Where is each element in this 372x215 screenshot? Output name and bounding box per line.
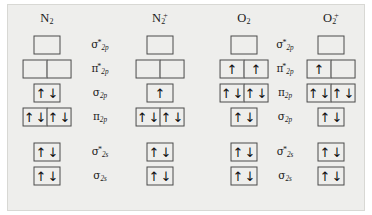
spin-up-arrow: ↑ bbox=[332, 88, 343, 99]
orbital-subscript: 2s bbox=[285, 175, 291, 183]
empty-orbital-box[interactable] bbox=[136, 60, 161, 79]
spin-down-arrow: ↓ bbox=[245, 171, 256, 182]
orbital-box-row-n2-5: ↑↓ bbox=[34, 167, 61, 186]
empty-orbital-box[interactable] bbox=[231, 36, 258, 55]
spin-down-arrow: ↓ bbox=[233, 88, 244, 99]
box-group: ↑↓↑↓ bbox=[220, 84, 269, 103]
orbital-box-row-o2plus-1: ↑ bbox=[307, 60, 356, 79]
orbital-subscript: 2s bbox=[287, 151, 293, 159]
spin-up-arrow: ↑ bbox=[155, 88, 166, 99]
spin-down-arrow: ↓ bbox=[343, 88, 354, 99]
occupied-orbital-box[interactable]: ↑↓ bbox=[231, 167, 258, 186]
spin-down-arrow: ↓ bbox=[332, 112, 343, 123]
occupied-orbital-box[interactable]: ↑ bbox=[147, 84, 174, 103]
orbital-greek-symbol: π bbox=[278, 86, 285, 98]
occupied-orbital-box[interactable]: ↑↓ bbox=[46, 108, 71, 127]
empty-orbital-box[interactable] bbox=[23, 60, 48, 79]
species-subscript: 2 bbox=[247, 17, 251, 26]
column-header-o2plus: O2+ bbox=[323, 11, 339, 26]
box-group: ↑↓ bbox=[231, 108, 258, 127]
occupied-orbital-box[interactable]: ↑↓ bbox=[231, 108, 258, 127]
spin-down-arrow: ↓ bbox=[48, 171, 59, 182]
empty-orbital-box[interactable] bbox=[159, 60, 184, 79]
orbital-box-row-n2-0 bbox=[34, 36, 61, 55]
occupied-orbital-box[interactable]: ↑↓ bbox=[307, 84, 332, 103]
orbital-subscript: 2p bbox=[285, 116, 292, 124]
box-group bbox=[23, 60, 72, 79]
occupied-orbital-box[interactable]: ↑↓ bbox=[147, 143, 174, 162]
spin-up-arrow: ↑ bbox=[320, 147, 331, 158]
box-group: ↑↓↑↓ bbox=[136, 108, 185, 127]
occupied-orbital-box[interactable]: ↑ bbox=[307, 60, 332, 79]
spin-up-arrow: ↑ bbox=[245, 88, 256, 99]
box-group: ↑↓ bbox=[231, 143, 258, 162]
occupied-orbital-box[interactable]: ↑↓ bbox=[34, 143, 61, 162]
orbital-box-row-n2plus-5: ↑↓ bbox=[147, 167, 174, 186]
occupied-orbital-box[interactable]: ↑↓ bbox=[34, 167, 61, 186]
orbital-label-left-3: π2p bbox=[93, 110, 107, 124]
box-group: ↑↓ bbox=[318, 167, 345, 186]
box-group bbox=[136, 60, 185, 79]
empty-orbital-box[interactable] bbox=[318, 36, 345, 55]
spin-down-arrow: ↓ bbox=[320, 88, 331, 99]
orbital-subscript: 2p bbox=[285, 92, 292, 100]
occupied-orbital-box[interactable]: ↑ bbox=[220, 60, 245, 79]
column-header-o2: O2 bbox=[237, 11, 250, 26]
spin-down-arrow: ↓ bbox=[48, 147, 59, 158]
orbital-label-right-2: π2p bbox=[278, 86, 292, 100]
spin-down-arrow: ↓ bbox=[149, 112, 160, 123]
orbital-box-row-n2-1 bbox=[23, 60, 72, 79]
occupied-orbital-box[interactable]: ↑↓ bbox=[220, 84, 245, 103]
occupied-orbital-box[interactable]: ↑↓ bbox=[318, 108, 345, 127]
occupied-orbital-box[interactable]: ↑↓ bbox=[34, 84, 61, 103]
orbital-label-left-5: σ2s bbox=[93, 169, 107, 183]
occupied-orbital-box[interactable]: ↑↓ bbox=[159, 108, 184, 127]
spin-up-arrow: ↑ bbox=[36, 147, 47, 158]
box-group: ↑↓ bbox=[318, 108, 345, 127]
spin-up-arrow: ↑ bbox=[314, 64, 325, 75]
spin-down-arrow: ↓ bbox=[332, 147, 343, 158]
column-header-n2plus: N2+ bbox=[152, 11, 168, 26]
orbital-subscript: 2s bbox=[102, 151, 108, 159]
box-group bbox=[147, 36, 174, 55]
orbital-subscript: 2p bbox=[100, 92, 107, 100]
orbital-label-left-2: σ2p bbox=[93, 86, 107, 100]
empty-orbital-box[interactable] bbox=[147, 36, 174, 55]
empty-orbital-box[interactable] bbox=[34, 36, 61, 55]
box-group: ↑↓ bbox=[231, 167, 258, 186]
spin-up-arrow: ↑ bbox=[233, 112, 244, 123]
species-symbol: O bbox=[323, 11, 332, 25]
orbital-box-row-n2plus-1 bbox=[136, 60, 185, 79]
occupied-orbital-box[interactable]: ↑↓ bbox=[136, 108, 161, 127]
spin-up-arrow: ↑ bbox=[36, 171, 47, 182]
orbital-box-row-n2-4: ↑↓ bbox=[34, 143, 61, 162]
occupied-orbital-box[interactable]: ↑↓ bbox=[23, 108, 48, 127]
occupied-orbital-box[interactable]: ↑↓ bbox=[318, 167, 345, 186]
empty-orbital-box[interactable] bbox=[46, 60, 71, 79]
occupied-orbital-box[interactable]: ↑↓ bbox=[330, 84, 355, 103]
species-charge: + bbox=[334, 11, 339, 20]
orbital-subscript: 2p bbox=[100, 116, 107, 124]
spin-up-arrow: ↑ bbox=[161, 112, 172, 123]
orbital-label-left-0: σ*2p bbox=[91, 38, 108, 52]
box-group: ↑ bbox=[147, 84, 174, 103]
spin-up-arrow: ↑ bbox=[320, 112, 331, 123]
occupied-orbital-box[interactable]: ↑ bbox=[243, 60, 268, 79]
spin-up-arrow: ↑ bbox=[36, 88, 47, 99]
orbital-box-row-n2-3: ↑↓↑↓ bbox=[23, 108, 72, 127]
spin-down-arrow: ↓ bbox=[245, 112, 256, 123]
occupied-orbital-box[interactable]: ↑↓ bbox=[231, 143, 258, 162]
spin-down-arrow: ↓ bbox=[161, 147, 172, 158]
species-charge: + bbox=[163, 11, 168, 20]
empty-orbital-box[interactable] bbox=[330, 60, 355, 79]
orbital-box-row-n2plus-0 bbox=[147, 36, 174, 55]
occupied-orbital-box[interactable]: ↑↓ bbox=[147, 167, 174, 186]
orbital-box-row-n2plus-4: ↑↓ bbox=[147, 143, 174, 162]
box-group: ↑↑ bbox=[220, 60, 269, 79]
orbital-label-right-5: σ2s bbox=[278, 169, 292, 183]
occupied-orbital-box[interactable]: ↑↓ bbox=[318, 143, 345, 162]
occupied-orbital-box[interactable]: ↑↓ bbox=[243, 84, 268, 103]
box-group: ↑↓ bbox=[147, 143, 174, 162]
orbital-box-row-o2-5: ↑↓ bbox=[231, 167, 258, 186]
spin-up-arrow: ↑ bbox=[137, 112, 148, 123]
